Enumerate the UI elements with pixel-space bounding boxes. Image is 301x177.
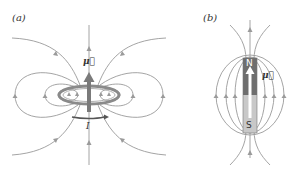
magnetic-moment-label-b: μ⃗ <box>262 70 274 80</box>
panel-a-current-loop <box>12 25 166 165</box>
panel-b-bar-magnet <box>214 20 287 165</box>
current-label: I <box>86 121 90 131</box>
south-pole-label: S <box>246 120 252 130</box>
field-diagram <box>0 0 301 177</box>
north-pole-label: N <box>246 58 253 68</box>
magnetic-moment-label-a: μ⃗ <box>83 56 95 66</box>
